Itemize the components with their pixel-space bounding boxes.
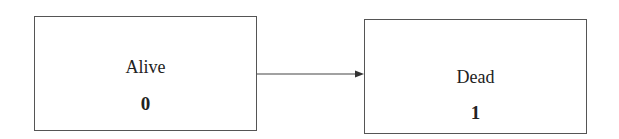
arrowhead-icon	[355, 71, 364, 78]
state-label: Dead	[365, 67, 586, 88]
state-value: 1	[365, 102, 586, 124]
state-box-dead: Dead 1	[364, 19, 587, 134]
